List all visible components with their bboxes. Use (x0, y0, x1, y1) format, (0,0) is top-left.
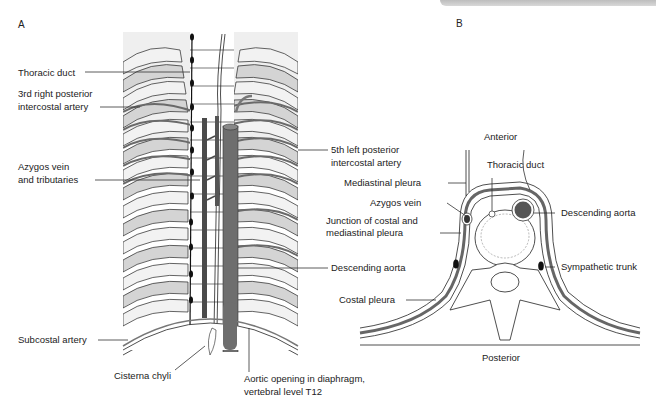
label-posterior: Posterior (482, 352, 520, 364)
label-costal-pleura: Costal pleura (339, 294, 395, 306)
label-cisterna-chyli: Cisterna chyli (114, 370, 171, 382)
label-thoracic-duct-b: Thoracic duct (487, 159, 544, 171)
label-aortic-opening-line2: vertebral level T12 (244, 386, 322, 398)
label-junction-line1: Junction of costal and (326, 215, 418, 227)
label-azygos-vein-b: Azygos vein (370, 197, 421, 209)
label-azygos-vein-line2: and tributaries (18, 174, 78, 186)
label-3rd-right-posterior-intercostal-artery-line1: 3rd right posterior (18, 88, 92, 100)
label-5th-left-posterior-intercostal-artery-line1: 5th left posterior (331, 144, 399, 156)
label-mediastinal-pleura: Mediastinal pleura (344, 177, 421, 189)
figure-b-cross-section (0, 0, 656, 410)
label-5th-left-posterior-intercostal-artery-line2: intercostal artery (331, 157, 401, 169)
label-descending-aorta-b: Descending aorta (561, 207, 635, 219)
label-thoracic-duct-a: Thoracic duct (18, 67, 75, 79)
label-azygos-vein-line1: Azygos vein (18, 161, 69, 173)
label-subcostal-artery: Subcostal artery (18, 334, 87, 346)
label-3rd-right-posterior-intercostal-artery-line2: intercostal artery (18, 101, 88, 113)
label-sympathetic-trunk: Sympathetic trunk (561, 261, 637, 273)
label-junction-line2: mediastinal pleura (326, 227, 403, 239)
label-anterior: Anterior (484, 131, 517, 143)
label-aortic-opening-line1: Aortic opening in diaphragm, (244, 373, 365, 385)
label-descending-aorta-a: Descending aorta (331, 262, 405, 274)
